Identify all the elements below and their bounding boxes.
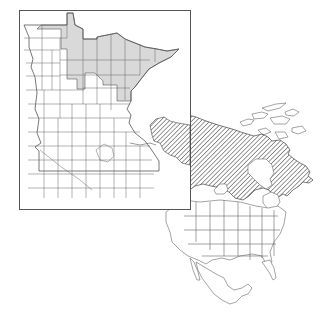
minnesota-inset <box>20 11 191 210</box>
mexico <box>196 262 252 304</box>
florida <box>262 260 276 280</box>
range-map-figure <box>0 0 326 317</box>
arctic-islands <box>240 103 306 139</box>
